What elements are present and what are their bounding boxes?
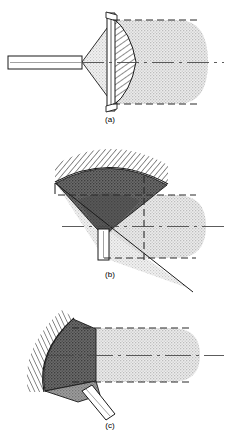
panel-a-caption: (a): [105, 115, 115, 124]
panel-c-caption: (c): [105, 421, 115, 430]
ultrasonic-transducer-beam-figure: (a) (b): [0, 0, 226, 442]
panel-b-caption: (b): [105, 270, 115, 279]
